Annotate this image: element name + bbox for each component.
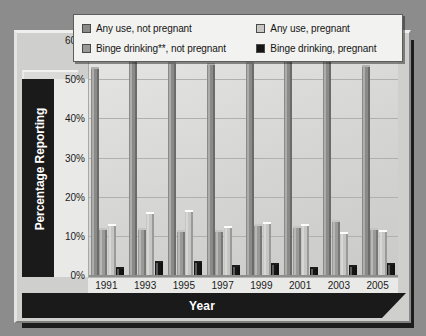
legend-label: Any use, not pregnant [96, 23, 192, 34]
bar [224, 228, 232, 275]
bar-highlight [272, 265, 274, 275]
bar [340, 234, 348, 275]
bar [91, 69, 99, 275]
y-axis-tick-label: 50% [65, 74, 85, 85]
y-axis-tick-label: 20% [65, 191, 85, 202]
bar-highlight [186, 212, 188, 275]
bar-highlight [341, 234, 343, 275]
x-axis-tick-label: 2001 [289, 280, 311, 291]
bar [207, 65, 215, 275]
legend-item[interactable]: Any use, not pregnant [82, 23, 252, 34]
legend-label: Binge drinking**, not pregnant [96, 43, 226, 54]
bar [129, 56, 137, 275]
bar [301, 226, 309, 275]
x-axis-band-wedge [382, 293, 406, 318]
bar-shadow-edge [355, 267, 357, 275]
bar-highlight [233, 267, 235, 275]
legend-label: Any use, pregnant [270, 23, 349, 34]
bar-highlight [208, 65, 210, 275]
bar-highlight [285, 58, 287, 275]
x-axis-tick-label: 1991 [95, 280, 117, 291]
bar [379, 232, 387, 275]
bar-highlight [363, 67, 365, 275]
bar-highlight [109, 226, 111, 275]
legend-swatch-icon [256, 44, 265, 53]
bar [155, 263, 163, 275]
bar-highlight [388, 265, 390, 275]
bar [246, 64, 254, 276]
bar-highlight [195, 263, 197, 275]
y-axis-tick-label: 10% [65, 230, 85, 241]
y-axis-tick-label: 0% [71, 270, 85, 281]
x-axis-tick-label: 1995 [173, 280, 195, 291]
bar [332, 222, 340, 275]
bar-shadow-edge [238, 267, 240, 275]
x-axis-tick-label: 2005 [367, 280, 389, 291]
x-axis-ticks: 19911993199519971999200120032005 [88, 277, 398, 294]
bar-highlight [156, 263, 158, 275]
bar [370, 230, 378, 275]
legend-item[interactable]: Binge drinking, pregnant [256, 43, 396, 54]
y-axis-title: Percentage Reporting [24, 81, 56, 257]
bar-highlight [130, 56, 132, 275]
y-axis-tick-label: 40% [65, 113, 85, 124]
bar-shadow-edge [161, 263, 163, 275]
bar-shadow-edge [277, 265, 279, 275]
bar-highlight [350, 267, 352, 275]
bar [263, 224, 271, 275]
bar [138, 230, 146, 275]
bar-shadow-edge [393, 265, 395, 275]
bar-highlight [371, 230, 373, 275]
bar-highlight [264, 224, 266, 275]
legend-swatch-icon [82, 44, 91, 53]
y-axis-band: Percentage Reporting [22, 79, 54, 277]
bar [177, 232, 185, 275]
bar-highlight [255, 226, 257, 275]
y-axis-ticks: 0%10%20%30%40%50%60% [54, 79, 88, 277]
bar [232, 267, 240, 275]
bar-highlight [324, 54, 326, 275]
x-axis-tick-label: 2003 [328, 280, 350, 291]
bar-highlight [333, 222, 335, 275]
x-axis-band: Year [22, 293, 382, 318]
y-axis-tick-label: 30% [65, 152, 85, 163]
plot-area [88, 40, 398, 277]
legend-label: Binge drinking, pregnant [270, 43, 376, 54]
bar-shadow-edge [200, 263, 202, 275]
bar-highlight [100, 230, 102, 275]
bar-highlight [147, 214, 149, 275]
bar [284, 58, 292, 275]
bar-highlight [380, 232, 382, 275]
bar [293, 228, 301, 275]
legend-item[interactable]: Any use, pregnant [256, 23, 396, 34]
bar [194, 263, 202, 275]
bar [215, 232, 223, 275]
x-axis-tick-label: 1999 [250, 280, 272, 291]
bar [323, 54, 331, 275]
bar-highlight [216, 232, 218, 275]
bar-highlight [247, 64, 249, 276]
bar-highlight [225, 228, 227, 275]
bar [254, 226, 262, 275]
bar-highlight [294, 228, 296, 275]
bar [271, 265, 279, 275]
chart-container: Percentage Reporting 0%10%20%30%40%50%60… [0, 0, 426, 336]
bar-highlight [169, 64, 171, 276]
bar [168, 64, 176, 276]
bars-layer [89, 40, 398, 277]
chart-legend: Any use, not pregnantAny use, pregnantBi… [73, 14, 403, 62]
bar [362, 67, 370, 275]
legend-item[interactable]: Binge drinking**, not pregnant [82, 43, 252, 54]
bar [387, 265, 395, 275]
bar-highlight [302, 226, 304, 275]
bar [146, 214, 154, 275]
bar-highlight [92, 69, 94, 275]
legend-swatch-icon [82, 24, 91, 33]
bar [185, 212, 193, 275]
bar [349, 267, 357, 275]
x-axis-tick-label: 1993 [134, 280, 156, 291]
bar-highlight [178, 232, 180, 275]
bar [99, 230, 107, 275]
legend-swatch-icon [256, 24, 265, 33]
x-axis-title: Year [189, 299, 215, 313]
